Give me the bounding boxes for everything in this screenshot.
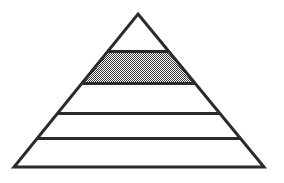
tier-5-base (0, 138, 284, 167)
pyramid-figure: Pyramid Diagram (0, 0, 284, 183)
pyramid-diagram (0, 0, 284, 183)
tier-5-fill (0, 138, 284, 167)
